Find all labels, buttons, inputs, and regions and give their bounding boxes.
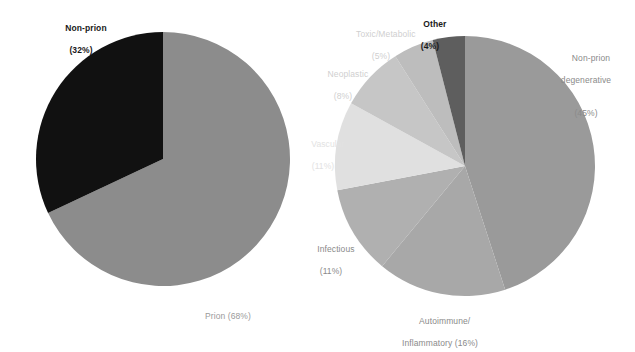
label-prion: Prion (68%) bbox=[168, 300, 278, 333]
label-autoimmune-inflammatory-line1: Autoimmune/ bbox=[419, 316, 470, 326]
label-infectious-line2: (11%) bbox=[292, 266, 370, 277]
label-non-prion-degenerative-line2: degenerative bbox=[540, 75, 632, 86]
label-vascular-line2: (11%) bbox=[290, 161, 356, 172]
label-prion-line1: Prion (68%) bbox=[205, 311, 251, 321]
label-neoplastic-line2: (8%) bbox=[305, 91, 381, 102]
label-infectious: Infectious (11%) bbox=[292, 233, 370, 299]
label-non-prion-degenerative: Non-prion degenerative (45%) bbox=[540, 42, 632, 141]
label-neoplastic-line1: Neoplastic bbox=[328, 69, 369, 79]
label-non-prion-line1: Non-prion bbox=[65, 23, 107, 33]
label-non-prion-degenerative-line1: Non-prion bbox=[572, 53, 610, 63]
label-autoimmune-inflammatory-line2: Inflammatory (16%) bbox=[375, 338, 505, 349]
label-toxic-metabolic-line1: Toxic/Metabolic bbox=[356, 29, 416, 39]
label-infectious-line1: Infectious bbox=[317, 244, 354, 254]
label-neoplastic: Neoplastic (8%) bbox=[305, 58, 381, 124]
label-non-prion: Non-prion (32%) bbox=[26, 12, 136, 78]
label-vascular-line1: Vascular bbox=[311, 139, 344, 149]
label-vascular: Vascular (11%) bbox=[290, 128, 356, 194]
label-non-prion-line2: (32%) bbox=[26, 45, 136, 56]
label-autoimmune-inflammatory: Autoimmune/ Inflammatory (16%) bbox=[375, 305, 505, 352]
label-non-prion-degenerative-line3: (45%) bbox=[540, 108, 632, 119]
